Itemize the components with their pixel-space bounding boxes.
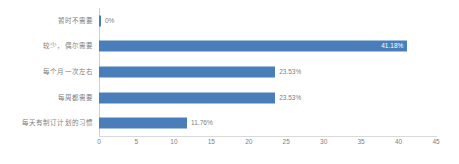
category-label: 较少，偶尔需要 (43, 43, 93, 50)
bar (99, 92, 275, 103)
bar-row: 每天有制订计划的习惯 11.76% (99, 110, 436, 136)
x-axis-line (99, 136, 437, 137)
category-label: 每周都需要 (58, 94, 94, 101)
x-axis-tick: 0 (97, 139, 101, 146)
bar (99, 41, 407, 52)
bar (99, 66, 275, 77)
x-axis-tick: 40 (395, 139, 402, 146)
x-axis-tick: 20 (245, 139, 252, 146)
x-axis-tick: 10 (170, 139, 177, 146)
value-label: 11.76% (191, 120, 213, 127)
category-label: 每天有制订计划的习惯 (22, 120, 93, 127)
bar-row: 暂时不需要 0% (99, 8, 436, 34)
bar (99, 15, 101, 26)
x-axis-tick: 25 (283, 139, 290, 146)
value-label: 41.18% (381, 43, 403, 50)
bar-row: 每周都需要 23.53% (99, 85, 436, 111)
x-axis-tick: 5 (135, 139, 139, 146)
value-label: 0% (105, 18, 114, 25)
x-axis-tick: 30 (320, 139, 327, 146)
x-axis-tick: 15 (208, 139, 215, 146)
x-axis-tick: 45 (432, 139, 439, 146)
horizontal-bar-chart: 暂时不需要 0% 较少，偶尔需要 41.18% 每个月一次左右 23.53% 每… (0, 0, 459, 164)
category-label: 暂时不需要 (58, 18, 94, 25)
plot-area: 暂时不需要 0% 较少，偶尔需要 41.18% 每个月一次左右 23.53% 每… (99, 8, 436, 136)
value-label: 23.53% (279, 69, 301, 76)
bar (99, 118, 187, 129)
x-axis-tick: 35 (357, 139, 364, 146)
bar-row: 较少，偶尔需要 41.18% (99, 34, 436, 60)
category-label: 每个月一次左右 (43, 69, 93, 76)
bar-row: 每个月一次左右 23.53% (99, 59, 436, 85)
value-label: 23.53% (279, 94, 301, 101)
